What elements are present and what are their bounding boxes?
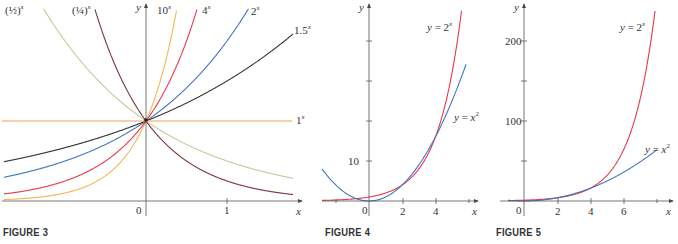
- figure-4-curves: [322, 11, 466, 201]
- label-2-pow-x: 2x: [251, 4, 260, 17]
- curve-1-5-x: [4, 34, 293, 162]
- curve-1-4-x: [95, 10, 293, 195]
- figure-5-label-x-squared: yy = x = x2: [645, 142, 670, 155]
- figure-5-tick-label-2: 2: [555, 205, 561, 217]
- figure-3-plot: [2, 4, 302, 216]
- label-1-5-pow-x: 1.5x: [294, 23, 311, 36]
- figure-5-caption: FIGURE 5: [496, 226, 541, 238]
- figures-canvas: [0, 0, 678, 244]
- figure-4-tick-label-10: 10: [348, 155, 359, 167]
- label-1-pow-x: 1x: [296, 113, 305, 126]
- figure-5-tick-label-100: 100: [505, 115, 522, 127]
- figure-4-label-2-pow-x: yy = 2 = 2x: [427, 20, 452, 33]
- figure-5-x-axis-label: x: [666, 205, 671, 217]
- label-10-pow-x: 10x: [157, 3, 171, 16]
- label-half-pow-x: (½)x: [5, 3, 24, 16]
- figure-5-tick-label-0: 0: [516, 204, 522, 216]
- figure-4-tick-label-2: 2: [400, 205, 406, 217]
- figure-5-curve-2-x: [508, 11, 655, 201]
- figure-3-y-axis-label: y: [136, 1, 141, 13]
- figure-5-y-axis-label: y: [514, 1, 519, 13]
- figure-3-caption: FIGURE 3: [3, 226, 48, 238]
- figure-3-x-axis-label: x: [296, 205, 301, 217]
- figure-4-tick-label-0: 0: [362, 204, 368, 216]
- figure-5-plot: [500, 4, 673, 216]
- figure-4-curve-x-2: [322, 64, 466, 201]
- figure-3-tick-label-1: 1: [224, 204, 230, 216]
- figure-3-curves: [2, 9, 293, 200]
- figure-5-tick-label-4: 4: [588, 205, 594, 217]
- figure-4-y-axis-label: y: [359, 1, 364, 13]
- figure-5-label-2-pow-x: yy = 2 = 2x: [620, 20, 645, 33]
- figure-4-caption: FIGURE 4: [325, 226, 370, 238]
- figure-4-label-x-squared: yy = x = x2: [454, 110, 479, 123]
- curve-4-x: [4, 10, 197, 195]
- figure-5-curves: [508, 11, 657, 201]
- label-quarter-pow-x: (¼)x: [72, 3, 91, 16]
- figure-5-tick-label-200: 200: [505, 35, 522, 47]
- figure-5-tick-label-6: 6: [621, 205, 627, 217]
- figure-4-tick-label-4: 4: [433, 205, 439, 217]
- figure-4-curve-2-x: [322, 11, 462, 201]
- figure-5-curve-x-2: [508, 150, 657, 201]
- figure-3-intersection-point: [144, 118, 148, 122]
- label-4-pow-x: 4x: [202, 3, 211, 16]
- curve-2-x: [4, 9, 249, 178]
- figure-4-x-axis-label: x: [472, 205, 477, 217]
- curve-1-2-x: [44, 9, 294, 179]
- figure-3-tick-label-0: 0: [136, 204, 142, 216]
